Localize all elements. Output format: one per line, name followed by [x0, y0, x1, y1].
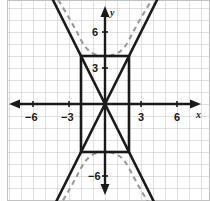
grid-background [7, 0, 210, 201]
x-axis-letter: x [196, 110, 201, 120]
y-tick-label-3: 3 [92, 63, 98, 74]
y-tick-label-6: 6 [92, 27, 98, 38]
coordinate-plane [0, 0, 210, 201]
x-tick-label-minus-6: −6 [25, 112, 38, 123]
x-tick-label-3: 3 [138, 112, 144, 123]
x-tick-label-6: 6 [174, 112, 180, 123]
y-tick-label-minus-6: −6 [88, 171, 101, 182]
x-tick-label-minus-3: −3 [61, 112, 74, 123]
graph-figure: −6 −3 3 6 6 3 −6 x y [0, 0, 210, 201]
y-axis-letter: y [110, 8, 114, 18]
